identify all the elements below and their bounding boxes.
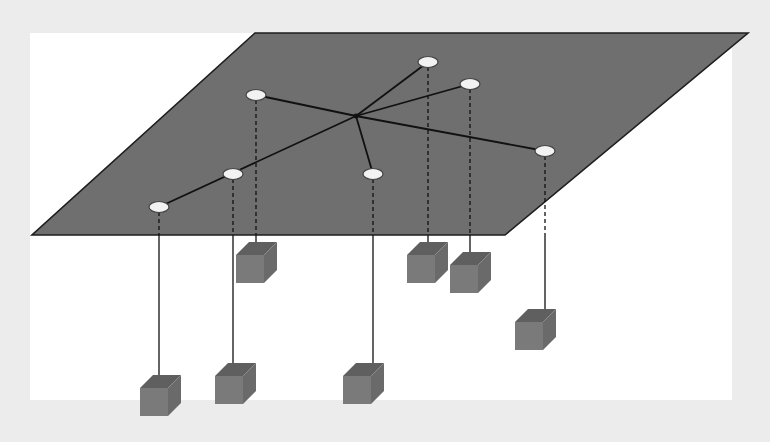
plane-node	[246, 90, 266, 101]
device-box-front	[450, 265, 478, 293]
diagram-canvas	[0, 0, 770, 442]
device-box	[343, 363, 384, 404]
plane-node	[149, 202, 169, 213]
device-box-front	[236, 255, 264, 283]
device-box	[407, 242, 448, 283]
plane-node	[363, 169, 383, 180]
shared-plane	[32, 33, 748, 235]
device-box	[140, 375, 181, 416]
plane-node	[418, 57, 438, 68]
plane-node	[223, 169, 243, 180]
network-diagram	[0, 0, 770, 442]
device-box	[236, 242, 277, 283]
device-box-front	[515, 322, 543, 350]
device-box-front	[215, 376, 243, 404]
device-box	[215, 363, 256, 404]
hub-point	[354, 114, 359, 119]
device-box-front	[140, 388, 168, 416]
device-boxes	[140, 242, 556, 416]
device-box-front	[407, 255, 435, 283]
device-box	[450, 252, 491, 293]
device-box-front	[343, 376, 371, 404]
plane-node	[535, 146, 555, 157]
plane-node	[460, 79, 480, 90]
device-box	[515, 309, 556, 350]
